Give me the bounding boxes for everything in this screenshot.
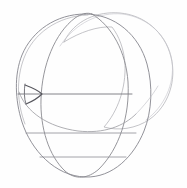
equator-arc-continuation xyxy=(134,86,158,116)
sketch-canvas: Two overlapping hand-sketched circles fo… xyxy=(0,0,187,188)
sketch-drawing xyxy=(0,0,187,188)
main-sphere-outline xyxy=(16,14,150,177)
great-circle-ellipse xyxy=(41,13,128,177)
secondary-sphere-overdraw xyxy=(60,14,172,120)
equator-arrowhead xyxy=(25,85,42,104)
main-sphere-outline-overdraw xyxy=(18,15,88,124)
